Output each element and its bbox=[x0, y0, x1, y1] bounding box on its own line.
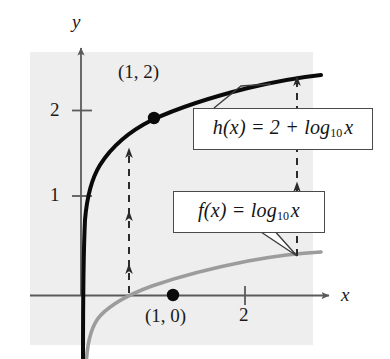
y-axis-label: y bbox=[72, 12, 80, 31]
point-marker-f bbox=[167, 289, 179, 301]
f-function-callout: f(x) = log10 x bbox=[173, 191, 325, 233]
graph-canvas bbox=[0, 0, 390, 359]
point-label-f: (1, 0) bbox=[145, 306, 186, 325]
x-tick-label-2: 2 bbox=[239, 305, 249, 324]
f-formula-prefix: f(x) = log bbox=[198, 199, 277, 221]
h-formula-suffix: x bbox=[344, 116, 353, 138]
h-function-callout: h(x) = 2 + log10 x bbox=[193, 108, 373, 150]
y-tick-label-1: 1 bbox=[50, 185, 60, 204]
y-tick-label-2: 2 bbox=[50, 100, 60, 119]
log-shift-figure: y x 2 1 2 (1, 2) (1, 0) h(x) = 2 + log10… bbox=[0, 0, 390, 359]
h-function-formula: h(x) = 2 + log10 x bbox=[213, 116, 354, 141]
point-marker-h bbox=[148, 112, 160, 124]
point-label-h: (1, 2) bbox=[118, 62, 159, 81]
f-formula-suffix: x bbox=[291, 199, 300, 221]
x-axis-label: x bbox=[341, 285, 349, 304]
h-formula-prefix: h(x) = 2 + log bbox=[213, 116, 331, 138]
f-formula-base: 10 bbox=[277, 210, 289, 224]
h-formula-base: 10 bbox=[330, 127, 342, 141]
f-function-formula: f(x) = log10 x bbox=[198, 199, 300, 224]
